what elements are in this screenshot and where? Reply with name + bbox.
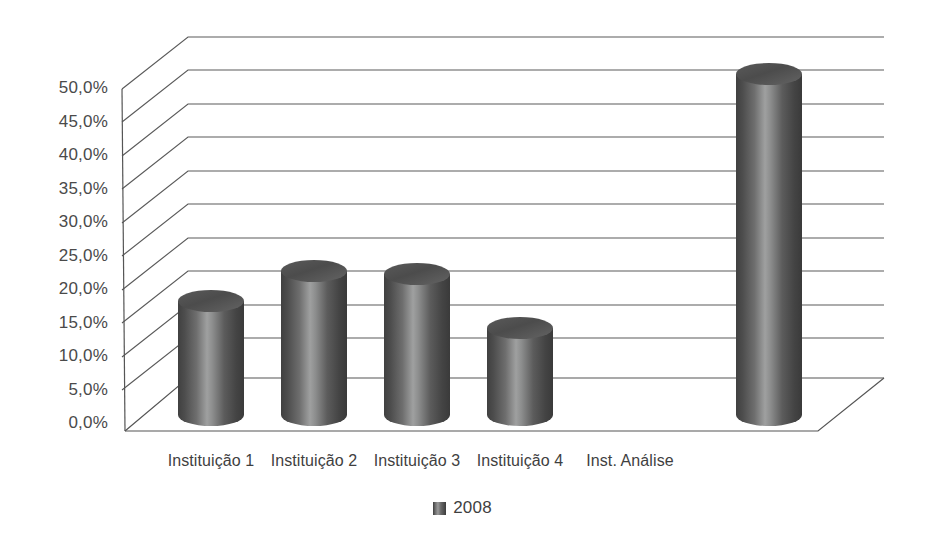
bar-inst-analise	[736, 63, 802, 426]
axis-tick-label: 25,0%	[22, 246, 108, 266]
chart-container: 50,0% 45,0% 40,0% 35,0% 30,0% 25,0% 20,0…	[0, 0, 925, 539]
bar-instituicao-3	[384, 263, 450, 426]
value-axis-line	[122, 89, 125, 431]
axis-tick-label: 5,0%	[22, 380, 108, 400]
axis-tick-label: 35,0%	[22, 179, 108, 199]
legend-swatch-2008	[433, 502, 446, 515]
bar-instituicao-2	[281, 260, 347, 426]
chart-legend: 2008	[0, 498, 925, 518]
axis-tick-label: 45,0%	[22, 112, 108, 132]
axis-tick-label: 30,0%	[22, 212, 108, 232]
legend-label-2008: 2008	[453, 498, 492, 518]
bar-instituicao-1	[178, 290, 244, 426]
axis-tick-label: 10,0%	[22, 346, 108, 366]
axis-tick-label: 50,0%	[22, 78, 108, 98]
axis-tick-label: 0,0%	[22, 413, 108, 433]
axis-tick-label: 40,0%	[22, 145, 108, 165]
category-label-inst-analise: Inst. Análise	[551, 452, 709, 470]
axis-tick-label: 20,0%	[22, 279, 108, 299]
bar-instituicao-4	[487, 317, 553, 426]
axis-tick-label: 15,0%	[22, 313, 108, 333]
